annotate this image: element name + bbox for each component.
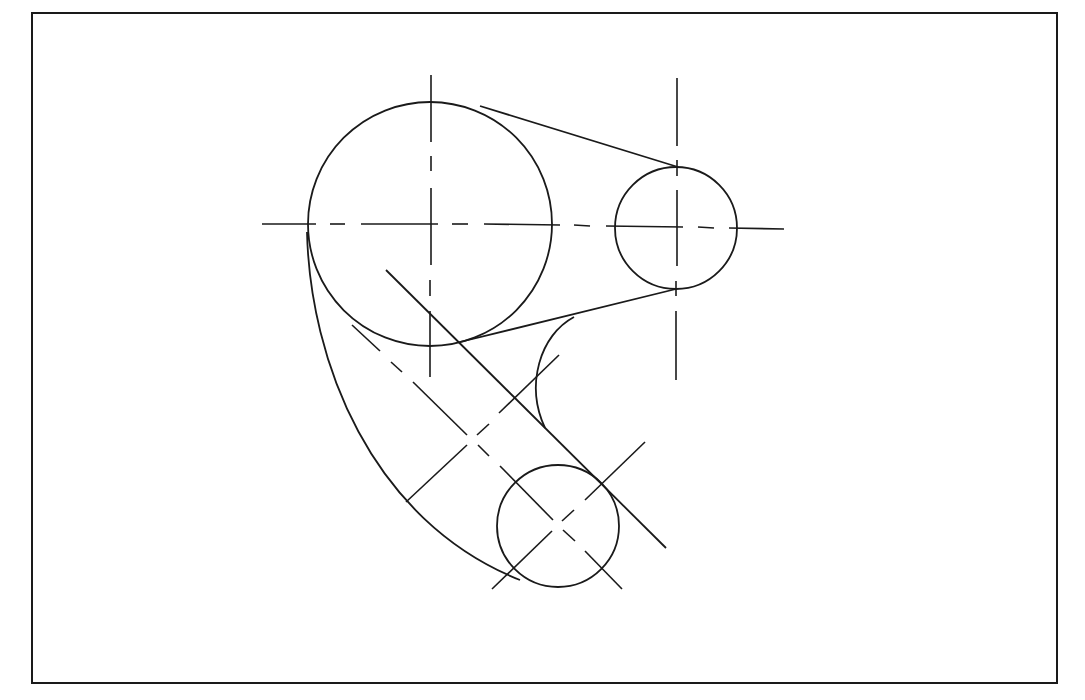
diagonal-construction-line [386, 270, 666, 548]
right-circle-vertical-center-line [676, 78, 677, 380]
arc-center-perpendicular-line [406, 355, 559, 502]
bottom-tangent-line [460, 289, 676, 342]
diagonal-center-line [352, 325, 622, 589]
large-circle-vertical-center-line [430, 75, 431, 377]
small-right-circle [615, 167, 737, 289]
bottom-circle-perpendicular-line [492, 442, 645, 589]
top-tangent-line [480, 106, 678, 167]
horizontal-center-line [262, 224, 784, 229]
outer-tangent-arc [307, 232, 520, 580]
drawing-canvas [0, 0, 1085, 700]
